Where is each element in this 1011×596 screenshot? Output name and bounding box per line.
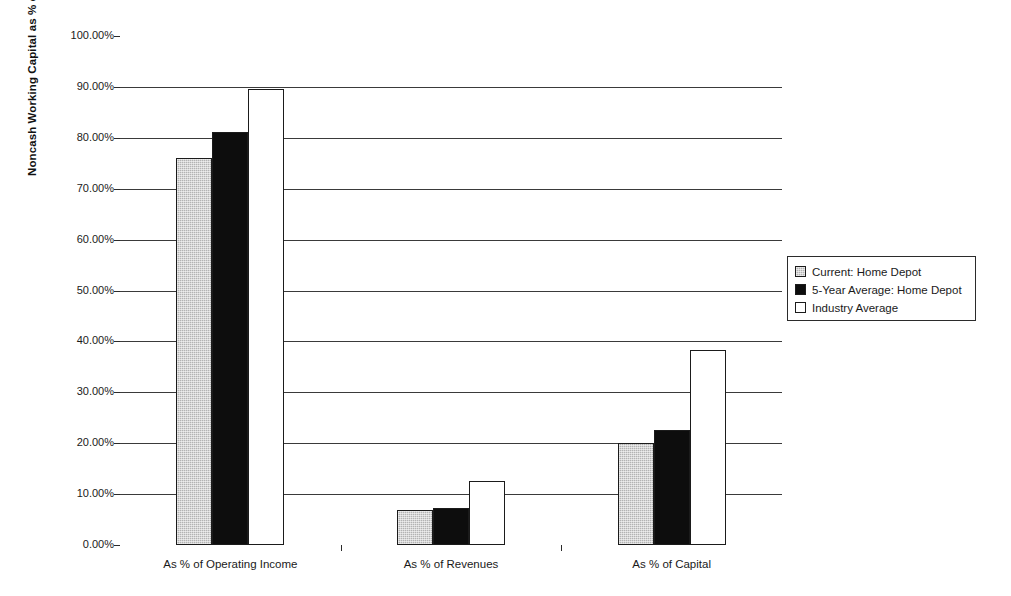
y-tick-mark [114,494,120,495]
bar [618,443,654,545]
gridline [120,87,782,88]
y-tick-label: 40.00% [52,334,114,346]
x-tick-label: As % of Revenues [404,558,499,570]
legend-item[interactable]: Current: Home Depot [795,263,968,280]
y-tick-mark [114,545,120,546]
y-tick-mark [114,189,120,190]
y-tick-mark [114,138,120,139]
y-tick-mark [114,341,120,342]
y-tick-mark [114,443,120,444]
legend-swatch-icon [795,302,806,313]
y-tick-label: 10.00% [52,487,114,499]
y-tick-mark [114,240,120,241]
y-tick-mark [114,392,120,393]
bar [654,430,690,545]
chart-container: Noncash Working Capital as % of Revenues… [0,0,1011,596]
y-tick-label: 30.00% [52,385,114,397]
legend-label: Industry Average [812,302,898,314]
y-tick-label: 0.00% [52,538,114,550]
y-tick-label: 20.00% [52,436,114,448]
legend-swatch-icon [795,266,806,277]
legend-label: 5-Year Average: Home Depot [812,284,962,296]
y-tick-mark [114,36,120,37]
x-axis-category-divider [341,545,342,551]
legend-item[interactable]: Industry Average [795,299,968,316]
bar [397,510,433,545]
chart-legend: Current: Home Depot5-Year Average: Home … [787,256,976,321]
y-tick-label: 80.00% [52,131,114,143]
x-tick-label: As % of Operating Income [163,558,297,570]
y-axis-tick-labels: 0.00%10.00%20.00%30.00%40.00%50.00%60.00… [42,36,114,545]
y-tick-label: 70.00% [52,182,114,194]
bar [433,508,469,545]
legend-label: Current: Home Depot [812,266,921,278]
bar [690,350,726,545]
legend-swatch-icon [795,284,806,295]
y-tick-label: 90.00% [52,80,114,92]
y-tick-label: 60.00% [52,233,114,245]
bar [248,89,284,545]
plot-area [120,36,782,545]
bar [176,158,212,545]
bar [212,132,248,545]
x-axis-category-divider [561,545,562,551]
y-tick-label: 100.00% [52,29,114,41]
legend-item[interactable]: 5-Year Average: Home Depot [795,281,968,298]
y-tick-mark [114,87,120,88]
x-tick-label: As % of Capital [632,558,711,570]
y-tick-label: 50.00% [52,284,114,296]
bar [469,481,505,545]
y-tick-mark [114,291,120,292]
